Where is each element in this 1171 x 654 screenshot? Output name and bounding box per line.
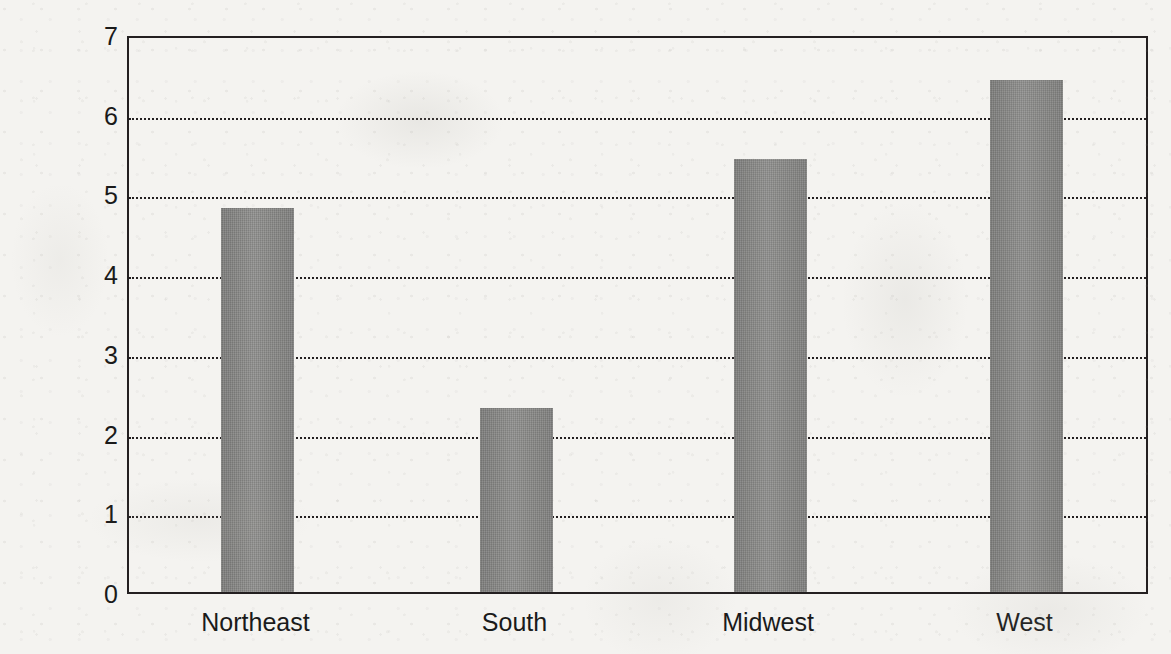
y-axis-tick-label: 0	[78, 580, 118, 609]
y-axis-tick-label: 6	[78, 101, 118, 130]
bar-chart: tons/daythroughput/million persons 01234…	[0, 0, 1171, 654]
bar	[480, 408, 553, 592]
x-axis-tick-label: Northeast	[201, 608, 309, 637]
plot-area	[127, 36, 1148, 594]
x-axis-tick-label: South	[482, 608, 547, 637]
bar	[990, 80, 1063, 592]
y-axis-tick-label: 3	[78, 340, 118, 369]
x-axis-tick-label: Midwest	[722, 608, 814, 637]
bar	[734, 159, 807, 592]
y-axis-title: tons/daythroughput/million persons	[14, 0, 56, 78]
y-axis-tick-label: 2	[78, 420, 118, 449]
bar	[221, 208, 294, 592]
y-axis-tick-label: 7	[78, 22, 118, 51]
y-axis-tick-label: 1	[78, 500, 118, 529]
y-axis-tick-label: 5	[78, 181, 118, 210]
x-axis-tick-label: West	[996, 608, 1053, 637]
y-axis-tick-label: 4	[78, 261, 118, 290]
